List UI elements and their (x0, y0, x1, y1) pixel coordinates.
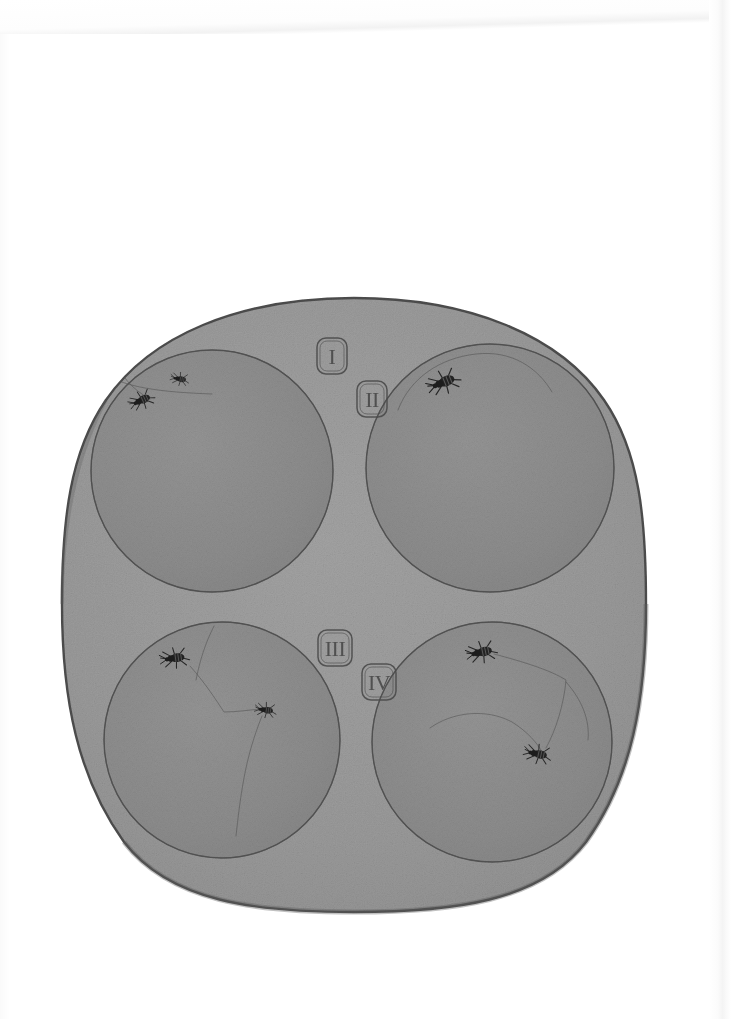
label-III-text: III (325, 636, 346, 661)
arena-2-disc (366, 344, 614, 592)
arena-1-disc (91, 350, 333, 592)
label-IV-text: IV (368, 670, 391, 695)
arena-3-disc (104, 622, 340, 858)
arena-4 (372, 622, 612, 862)
arena-2 (366, 344, 614, 592)
arena-1 (91, 350, 333, 592)
plate-drawing: IIIIIIIV (0, 0, 731, 1019)
label-II-text: II (365, 387, 379, 412)
plate-page: IIIIIIIV 4 7 I II III IV (0, 0, 731, 1019)
label-I-text: I (329, 344, 336, 369)
arena-4-disc (372, 622, 612, 862)
arena-3 (104, 622, 340, 858)
